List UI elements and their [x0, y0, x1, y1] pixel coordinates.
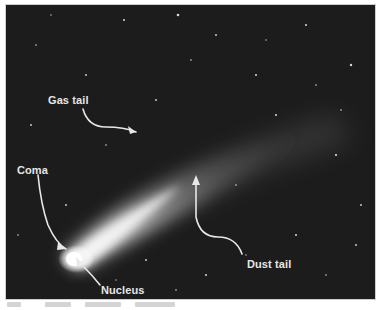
caption-fragment [45, 302, 71, 307]
nucleus-label: Nucleus [101, 284, 145, 296]
comet-photo: Gas tail Coma Nucleus Dust tail [5, 4, 376, 300]
caption-fragment [135, 302, 175, 307]
figure-caption-cropped [5, 300, 375, 310]
caption-fragment [85, 302, 121, 307]
gas-tail-label: Gas tail [48, 94, 89, 106]
caption-fragment [7, 302, 21, 307]
coma-label: Coma [17, 164, 48, 176]
comet-illustration [6, 5, 375, 299]
dust-tail-label: Dust tail [247, 258, 291, 270]
